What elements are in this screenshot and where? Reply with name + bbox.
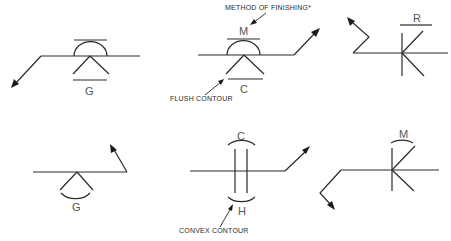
- arrow-leader: [320, 170, 341, 205]
- weld-diagonal-down: [402, 53, 424, 76]
- weld-v-right: [90, 56, 109, 74]
- callout-leader: [205, 82, 221, 95]
- convex-contour-arc: [74, 42, 107, 56]
- weld-v-left: [60, 172, 77, 190]
- callout-method-of-finishing: METHOD OF FINISHING*: [225, 4, 311, 11]
- arrow-leader: [285, 151, 306, 171]
- weld-symbol-4: [33, 144, 127, 199]
- finish-letter: G: [85, 85, 94, 97]
- finish-letter-top: M: [239, 25, 248, 37]
- arrow-leader: [352, 22, 369, 53]
- convex-contour-arc: [61, 193, 90, 199]
- finish-letter: G: [72, 201, 81, 213]
- arrowhead-icon: [347, 17, 355, 26]
- arrow-leader: [15, 56, 41, 84]
- arrowhead-icon: [250, 19, 257, 25]
- finish-letter: R: [413, 12, 421, 24]
- arrowhead-icon: [228, 204, 233, 211]
- arrow-leader: [113, 148, 127, 172]
- convex-contour-arc: [391, 140, 413, 143]
- convex-contour-arc-bottom: [228, 197, 255, 202]
- weld-diagonal-up: [392, 146, 415, 170]
- finish-letter-bottom: C: [240, 83, 248, 95]
- weld-v-left: [226, 55, 244, 74]
- weld-symbol-3: [347, 17, 448, 76]
- finish-letter-bottom: H: [238, 205, 246, 217]
- convex-contour-arc: [227, 41, 260, 55]
- finish-letter-top: C: [237, 130, 245, 142]
- arrow-leader: [294, 33, 315, 55]
- callout-leader: [220, 208, 231, 227]
- weld-symbol-2: [198, 13, 320, 95]
- weld-diagonal-down: [392, 170, 414, 191]
- finish-letter: M: [399, 128, 408, 140]
- weld-symbol-6: [320, 140, 439, 210]
- callout-convex-contour: CONVEX CONTOUR: [179, 227, 249, 234]
- callout-flush-contour: FLUSH CONTOUR: [170, 95, 233, 102]
- weld-v-right: [244, 55, 264, 74]
- weld-symbol-5: [190, 140, 310, 227]
- welding-symbols-diagram: G M C METHOD OF FINISHING* FLUSH CONTOUR…: [0, 0, 451, 241]
- weld-v-right: [77, 172, 93, 190]
- arrowhead-icon: [302, 146, 310, 154]
- weld-v-left: [73, 56, 90, 74]
- arrowhead-icon: [110, 144, 117, 153]
- weld-diagonal-up: [402, 31, 423, 53]
- weld-symbol-1: [11, 40, 140, 88]
